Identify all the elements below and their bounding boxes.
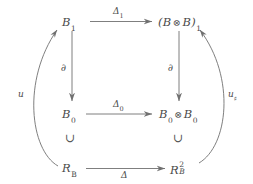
label-delta-0: Δ0	[113, 99, 124, 112]
tensor-icon: ⊗	[171, 17, 182, 28]
arrow-right-curve	[199, 30, 224, 163]
inclusion-symbol-left: ∪	[65, 131, 75, 145]
node-bottom-right: R2B	[170, 161, 185, 177]
node-top-left-base: B	[62, 15, 71, 29]
tensor-icon: ⊗	[173, 109, 184, 120]
diagram-lines	[0, 0, 253, 184]
node-bottom-left: RB	[62, 161, 77, 177]
node-bottom-left-base: R	[62, 161, 71, 175]
label-u-sharp-symbol: u	[228, 89, 234, 99]
label-u-sharp: u♯	[228, 89, 237, 102]
node-bottom-right-base: R	[170, 163, 179, 177]
node-middle-right-left-base: B	[159, 107, 168, 121]
label-delta-symbol: Δ	[121, 170, 128, 180]
label-boundary-left-symbol: ∂	[61, 62, 66, 73]
arrow-left-curve	[34, 30, 58, 166]
node-top-right: (B⊗B)1	[158, 15, 201, 31]
node-top-right-subscript: 1	[196, 24, 201, 33]
inclusion-symbol-right: ∪	[173, 131, 183, 145]
label-boundary-left: ∂	[61, 62, 66, 73]
label-u: u	[18, 89, 24, 99]
label-boundary-right-symbol: ∂	[168, 62, 173, 73]
node-middle-right-right-subscript: 0	[193, 116, 198, 125]
label-delta: Δ	[121, 170, 128, 180]
label-delta-1: Δ1	[113, 6, 124, 19]
commutative-diagram: B1 (B⊗B)1 B0 B0⊗B0 RB R2B Δ1 Δ0 Δ ∂ ∂ u …	[0, 0, 253, 184]
node-middle-left: B0	[62, 107, 76, 123]
node-top-right-right-base: B	[183, 15, 192, 29]
label-delta-0-symbol: Δ	[113, 99, 120, 109]
label-boundary-right: ∂	[168, 62, 173, 73]
node-bottom-left-subscript: B	[71, 170, 77, 179]
node-middle-right-right-base: B	[184, 107, 193, 121]
node-top-left: B1	[62, 15, 76, 31]
node-bottom-right-indices: 2B	[179, 161, 185, 175]
node-top-left-subscript: 1	[71, 24, 76, 33]
label-u-sharp-subscript: ♯	[234, 95, 237, 103]
node-middle-left-subscript: 0	[71, 116, 76, 125]
node-bottom-right-subscript: B	[179, 168, 185, 175]
label-delta-1-symbol: Δ	[113, 6, 120, 16]
node-middle-left-base: B	[62, 107, 71, 121]
node-middle-right: B0⊗B0	[159, 107, 197, 123]
label-u-symbol: u	[18, 89, 24, 99]
label-delta-1-subscript: 1	[120, 12, 124, 20]
label-delta-0-subscript: 0	[120, 105, 124, 113]
